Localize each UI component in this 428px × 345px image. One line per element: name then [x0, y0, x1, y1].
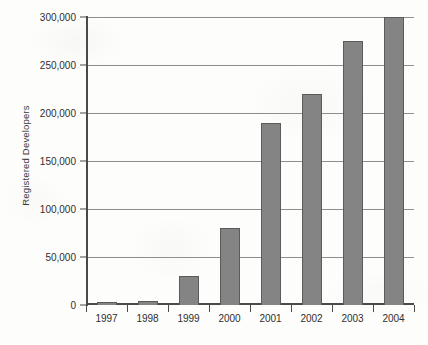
x-tick-mark	[291, 305, 292, 312]
y-tick: 150,000	[40, 156, 86, 167]
x-tick-mark	[414, 305, 415, 312]
bar-1999	[179, 276, 199, 305]
x-tick-mark	[332, 305, 333, 312]
y-tick-label: 150,000	[40, 156, 76, 167]
y-tick: 200,000	[40, 108, 86, 119]
bar-slot	[127, 17, 168, 305]
bar-slot	[209, 17, 250, 305]
x-tick-mark	[373, 305, 374, 312]
bar-2002	[302, 94, 322, 305]
x-tick-label-2002: 2002	[291, 313, 332, 329]
x-tick-label-2003: 2003	[332, 313, 373, 329]
y-tick: 50,000	[45, 252, 86, 263]
bar-slot	[86, 17, 127, 305]
y-tick-label: 300,000	[40, 12, 76, 23]
x-axis-ticks	[86, 305, 414, 312]
x-tick-label-1997: 1997	[86, 313, 127, 329]
bar-slot	[168, 17, 209, 305]
chart-page: Registered Developers 300,000 250,000 20…	[0, 0, 428, 345]
x-tick-label-1998: 1998	[127, 313, 168, 329]
bar-slot	[291, 17, 332, 305]
bar-2003	[343, 41, 363, 305]
x-tick-mark	[250, 305, 251, 312]
y-axis-ticks: 300,000 250,000 200,000 150,000 100,000 …	[0, 17, 86, 305]
x-tick-label-1999: 1999	[168, 313, 209, 329]
y-tick: 0	[70, 300, 86, 311]
x-tick-label-2001: 2001	[250, 313, 291, 329]
y-tick-label: 250,000	[40, 60, 76, 71]
bar-2001	[261, 123, 281, 305]
x-tick-mark	[168, 305, 169, 312]
y-tick-label: 100,000	[40, 204, 76, 215]
y-tick: 100,000	[40, 204, 86, 215]
x-tick-mark	[86, 305, 87, 312]
y-tick: 250,000	[40, 60, 86, 71]
bar-2004	[384, 17, 404, 305]
x-axis-labels: 1997 1998 1999 2000 2001 2002 2003 2004	[86, 313, 414, 329]
bar-slot	[332, 17, 373, 305]
x-tick-label-2004: 2004	[373, 313, 414, 329]
x-tick-label-2000: 2000	[209, 313, 250, 329]
y-tick: 300,000	[40, 12, 86, 23]
bar-slot	[250, 17, 291, 305]
bar-series	[86, 17, 414, 305]
x-tick-mark	[209, 305, 210, 312]
y-tick-label: 50,000	[45, 252, 76, 263]
bar-2000	[220, 228, 240, 305]
y-tick-label: 200,000	[40, 108, 76, 119]
y-tick-label: 0	[70, 300, 76, 311]
x-tick-mark	[127, 305, 128, 312]
bar-slot	[373, 17, 414, 305]
